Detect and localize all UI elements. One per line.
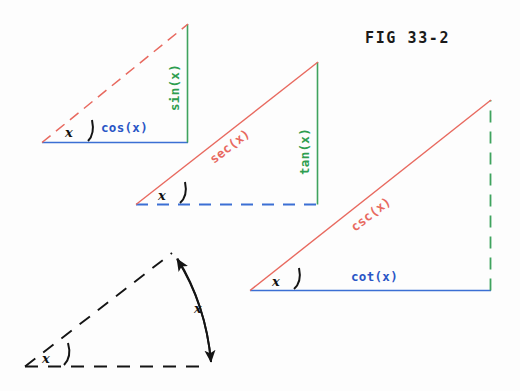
triangle1-angle-label: x [64,125,73,140]
cot-label: cot(x) [351,269,398,284]
sector-ray-line [25,253,172,367]
triangle2-angle-label: x [157,188,166,203]
csc-side-line [250,100,491,291]
figure-canvas: x cos(x) sin(x) x sec(x) tan(x) [0,0,520,391]
sector-vertex-angle-label: x [41,351,50,366]
angle-arc-icon [180,182,186,203]
tan-label: tan(x) [297,128,312,175]
sector-angle-arc-icon [64,343,69,365]
sin-label: sin(x) [167,64,182,111]
angle-arc-icon [88,120,93,141]
secant-tangent-triangle: x sec(x) tan(x) [136,62,318,205]
cosecant-cotangent-triangle: x csc(x) cot(x) [250,100,491,291]
sine-cosine-triangle: x cos(x) sin(x) [42,24,188,143]
cos-label: cos(x) [101,120,148,135]
trigonometry-figure: x cos(x) sin(x) x sec(x) tan(x) [0,0,520,391]
angle-arc-icon [294,268,300,289]
sec-side-line [136,62,318,205]
sector-arc-label: x [193,301,202,316]
csc-label: csc(x) [348,194,394,235]
figure-caption: FIG 33-2 [365,29,450,47]
angle-sector-figure: x x [25,253,211,367]
triangle3-angle-label: x [271,274,280,289]
